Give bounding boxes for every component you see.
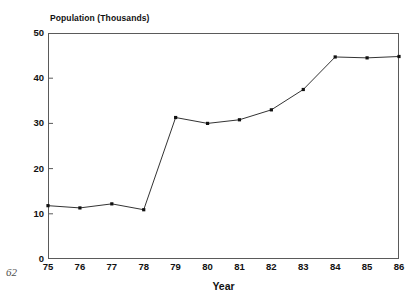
data-point-marker xyxy=(174,116,177,119)
data-line-population xyxy=(48,57,399,210)
data-point-marker xyxy=(365,56,368,59)
y-tick-label: 20 xyxy=(18,164,44,174)
y-tick-label: 40 xyxy=(18,73,44,83)
x-tick-label: 79 xyxy=(161,262,191,272)
x-tick-label: 85 xyxy=(352,262,382,272)
plot-area xyxy=(48,33,399,259)
chart-title: Population (Thousands) xyxy=(50,13,149,23)
x-tick-label: 75 xyxy=(33,262,63,272)
x-axis-tick-labels: 757677787980818283848586 xyxy=(0,262,420,276)
data-point-marker xyxy=(302,88,305,91)
y-axis-tick-labels: 01020304050 xyxy=(12,0,44,301)
data-point-marker xyxy=(46,204,49,207)
data-point-marker xyxy=(270,108,273,111)
x-tick-label: 80 xyxy=(193,262,223,272)
data-point-marker xyxy=(78,206,81,209)
x-tick-label: 77 xyxy=(97,262,127,272)
x-tick-label: 86 xyxy=(384,262,414,272)
chart-figure: Population (Thousands) 01020304050 75767… xyxy=(0,0,420,301)
x-tick-label: 81 xyxy=(224,262,254,272)
data-point-marker xyxy=(142,208,145,211)
y-tick-label: 50 xyxy=(18,28,44,38)
data-point-marker xyxy=(110,202,113,205)
x-tick-label: 82 xyxy=(256,262,286,272)
x-axis-title: Year xyxy=(48,280,399,292)
data-point-marker xyxy=(397,55,400,58)
y-tick-label: 30 xyxy=(18,118,44,128)
x-tick-label: 76 xyxy=(65,262,95,272)
y-tick-label: 10 xyxy=(18,209,44,219)
x-tick-label: 83 xyxy=(288,262,318,272)
data-point-marker xyxy=(206,122,209,125)
data-point-marker xyxy=(238,118,241,121)
data-point-marker xyxy=(334,55,337,58)
x-tick-label: 78 xyxy=(129,262,159,272)
page-number: 62 xyxy=(6,266,17,278)
x-tick-label: 84 xyxy=(320,262,350,272)
